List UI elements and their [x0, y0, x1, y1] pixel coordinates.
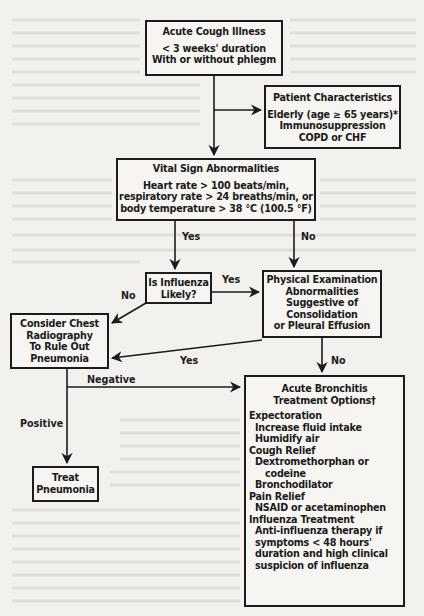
edge-label-positive: Positive — [20, 418, 63, 429]
node-title: Vital Sign Abnormalities — [118, 163, 314, 175]
edge-label-influenza-yes: Yes — [222, 274, 240, 285]
node-vital-sign-abnormalities: Vital Sign Abnormalities Heart rate > 10… — [116, 158, 316, 221]
node-acute-bronchitis-treatment: Acute Bronchitis Treatment Options† Expe… — [244, 375, 405, 607]
section-heading-influenza-treatment: Influenza Treatment — [246, 514, 403, 526]
edge-label-vitals-no: No — [301, 231, 316, 242]
edge-label-vitals-yes: Yes — [182, 231, 200, 242]
section-heading-pain-relief: Pain Relief — [246, 491, 403, 503]
edge-label-negative: Negative — [87, 374, 136, 385]
edge-label-influenza-no: No — [121, 290, 136, 301]
node-physical-examination: Physical Examination Abnormalities Sugge… — [262, 270, 382, 338]
edge-label-physical-no: No — [331, 355, 346, 366]
node-is-influenza-likely: Is Influenza Likely? — [145, 272, 212, 304]
node-treat-pneumonia: Treat Pneumonia — [32, 466, 99, 502]
edge-label-physical-yes: Yes — [180, 355, 198, 366]
node-title: Acute Cough Illness — [147, 26, 281, 38]
node-consider-chest-radiography: Consider Chest Radiography To Rule Out P… — [10, 313, 109, 369]
node-title: Patient Characteristics — [266, 92, 399, 104]
section-heading-cough-relief: Cough Relief — [246, 445, 403, 457]
node-patient-characteristics: Patient Characteristics Elderly (age ≥ 6… — [264, 85, 401, 149]
section-heading-expectoration: Expectoration — [246, 410, 403, 422]
node-title: Acute Bronchitis — [246, 383, 403, 395]
node-acute-cough-illness: Acute Cough Illness < 3 weeks' duration … — [145, 20, 283, 76]
node-title: Treatment Options† — [246, 395, 403, 407]
arrow-influenza-no — [112, 303, 146, 323]
